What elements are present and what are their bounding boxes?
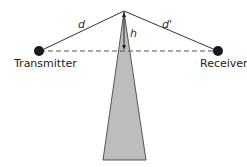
receiver-dot bbox=[213, 46, 223, 56]
transmitter-dot bbox=[34, 46, 44, 56]
transmitter-label: Transmitter bbox=[13, 57, 77, 70]
arrow-head-top bbox=[122, 12, 126, 17]
receiver-label: Receiver bbox=[200, 57, 247, 70]
d-label: d bbox=[78, 18, 86, 31]
knife-edge-diagram: Transmitter Receiver d d' h bbox=[0, 0, 247, 167]
h-label: h bbox=[130, 27, 137, 40]
d-prime-label: d' bbox=[162, 18, 172, 31]
path-d-prime bbox=[124, 11, 218, 51]
path-d bbox=[40, 11, 124, 51]
